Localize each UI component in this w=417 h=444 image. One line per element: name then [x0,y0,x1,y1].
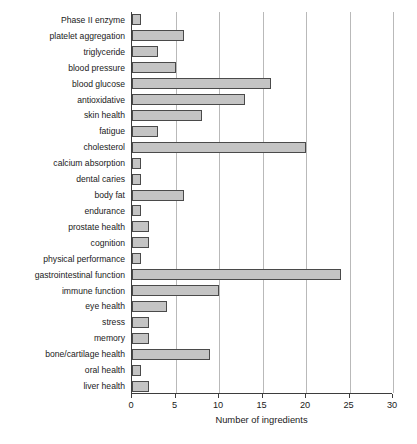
bar-row [132,78,392,90]
category-label-immune-function: immune function [0,286,128,296]
x-tick-label-5: 5 [160,400,190,411]
bar [132,333,149,344]
bar [132,14,141,25]
bar [132,78,271,89]
bar-row [132,189,392,201]
category-label-blood-pressure: blood pressure [0,63,128,73]
category-label-memory: memory [0,333,128,343]
plot-area [131,12,392,394]
category-label-endurance: endurance [0,206,128,216]
bar [132,94,245,105]
bar-row [132,109,392,121]
x-tick-mark-10 [218,394,219,398]
bar-row [132,300,392,312]
bar-row [132,316,392,328]
bar-row [132,125,392,137]
category-label-physical-performance: physical performance [0,254,128,264]
bar-row [132,364,392,376]
bar-row [132,157,392,169]
x-tick-label-30: 30 [377,400,407,411]
bar [132,174,141,185]
x-axis-title: Number of ingredients [131,414,392,425]
bar-row [132,332,392,344]
bar-row [132,46,392,58]
x-tick-mark-15 [262,394,263,398]
category-label-cholesterol: cholesterol [0,142,128,152]
category-label-prostate-health: prostate health [0,222,128,232]
x-tick-mark-5 [175,394,176,398]
bar [132,301,167,312]
category-label-antioxidative: antioxidative [0,95,128,105]
x-tick-label-25: 25 [334,400,364,411]
category-label-fatigue: fatigue [0,126,128,136]
category-label-blood-glucose: blood glucose [0,79,128,89]
category-label-gastrointestinal-function: gastrointestinal function [0,270,128,280]
bar-row [132,62,392,74]
category-label-skin-health: skin health [0,110,128,120]
bar-row [132,94,392,106]
bar-row [132,237,392,249]
bar [132,126,158,137]
category-label-calcium-absorption: calcium absorption [0,158,128,168]
x-tick-mark-30 [392,394,393,398]
bar [132,30,184,41]
bar [132,46,158,57]
bar-row [132,285,392,297]
category-label-body-fat: body fat [0,190,128,200]
bar [132,269,341,280]
category-label-platelet-aggregation: platelet aggregation [0,31,128,41]
bar [132,205,141,216]
category-label-liver-health: liver health [0,381,128,391]
bar [132,110,202,121]
x-tick-label-15: 15 [247,400,277,411]
gridline-30 [393,12,394,393]
bar [132,190,184,201]
bar-chart-figure: Phase II enzymeplatelet aggregationtrigl… [0,0,417,444]
x-tick-label-20: 20 [290,400,320,411]
bar-row [132,173,392,185]
category-label-dental-caries: dental caries [0,174,128,184]
bar [132,253,141,264]
x-tick-mark-20 [305,394,306,398]
bar [132,365,141,376]
bar [132,381,149,392]
bar-row [132,269,392,281]
bar [132,158,141,169]
bar-row [132,205,392,217]
bar-row [132,141,392,153]
bar [132,237,149,248]
bar [132,285,219,296]
category-label-triglyceride: triglyceride [0,47,128,57]
category-label-phase-ii-enzyme: Phase II enzyme [0,15,128,25]
bar [132,142,306,153]
bar [132,349,210,360]
bar [132,317,149,328]
x-tick-label-0: 0 [116,400,146,411]
bar [132,221,149,232]
category-axis-labels: Phase II enzymeplatelet aggregationtrigl… [0,12,128,394]
x-tick-mark-25 [349,394,350,398]
bar-row [132,221,392,233]
bar-row [132,380,392,392]
category-label-oral-health: oral health [0,365,128,375]
bar-series [132,12,392,393]
x-tick-label-10: 10 [203,400,233,411]
bar-row [132,348,392,360]
category-label-stress: stress [0,317,128,327]
bar-row [132,253,392,265]
category-label-cognition: cognition [0,238,128,248]
bar-row [132,30,392,42]
category-label-bone-cartilage-health: bone/cartilage health [0,349,128,359]
bar [132,62,176,73]
x-tick-mark-0 [131,394,132,398]
category-label-eye-health: eye health [0,301,128,311]
bar-row [132,14,392,26]
